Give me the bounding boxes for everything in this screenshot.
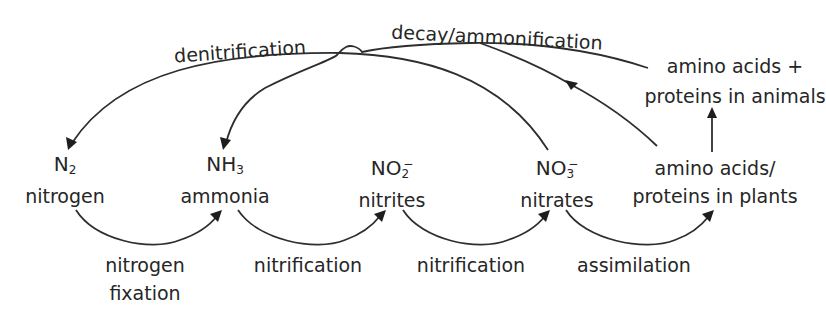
ammonia-formula: NH3 (180, 152, 269, 182)
nitrogen-fixation-line-1: nitrogen (105, 252, 185, 278)
plants-line-2: proteins in plants (632, 184, 797, 208)
nitrification-1-arrow (238, 210, 380, 245)
node-nitrites: NO2− nitrites (359, 152, 426, 212)
plants-line-1: amino acids/ (632, 156, 797, 180)
nitrification-1-label: nitrification (254, 252, 362, 278)
decay-from-plants-arrowhead (565, 80, 578, 90)
assimilation-label: assimilation (577, 252, 691, 278)
nitrification-2-label: nitrification (417, 252, 525, 278)
nitrogen-name: nitrogen (25, 184, 105, 208)
nitrites-name: nitrites (359, 188, 426, 212)
node-plants: amino acids/ proteins in plants (632, 156, 797, 208)
assimilation-arrow (566, 210, 709, 245)
assimilation-arrowhead (702, 210, 714, 222)
node-nitrates: NO3− nitrates (520, 152, 593, 212)
nitrogen-fixation-label: nitrogen fixation (105, 252, 185, 306)
decay-from-plants-arrow (480, 43, 657, 146)
nitrogen-formula: N2 (25, 152, 105, 182)
nitrates-name: nitrates (520, 188, 593, 212)
animals-line-1: amino acids + (644, 54, 825, 78)
nitrogen-fixation-arrow (76, 210, 217, 245)
nitrogen-fixation-line-2: fixation (105, 280, 185, 306)
nitrites-formula: NO2− (359, 152, 426, 186)
feeding-arrowhead (707, 107, 717, 118)
nitrogen-fixation-arrowhead (210, 210, 222, 222)
ammonia-name: ammonia (180, 184, 269, 208)
nitrification-2-arrow (403, 210, 545, 245)
node-ammonia: NH3 ammonia (180, 152, 269, 208)
node-nitrogen: N2 nitrogen (25, 152, 105, 208)
decay-arrowhead-nh3 (220, 137, 231, 150)
node-animals: amino acids + proteins in animals (644, 54, 825, 108)
animals-line-2: proteins in animals (644, 84, 825, 108)
nitrates-formula: NO3− (520, 152, 593, 186)
